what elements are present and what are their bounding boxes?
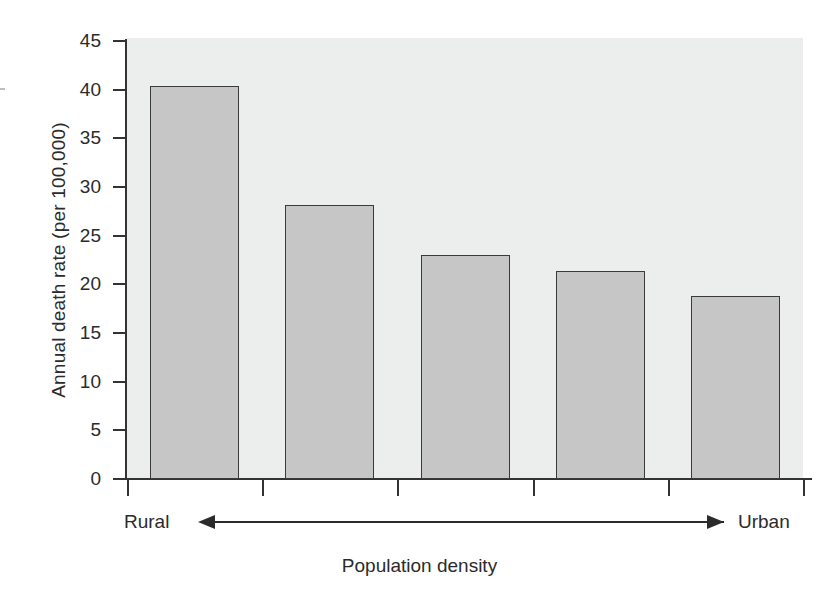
- y-axis-tick-label-text: 40: [57, 80, 101, 99]
- y-axis-tick-label-text: 25: [57, 226, 101, 245]
- bar: [556, 271, 645, 479]
- y-axis-tick-label-text: 0: [57, 469, 101, 488]
- y-axis-tick-label-text: 45: [57, 31, 101, 50]
- y-axis-tick-label-text: 20: [57, 274, 101, 293]
- density-direction-annotation: Rural Urban: [0, 508, 839, 536]
- bar: [150, 86, 239, 479]
- x-axis-tick: [127, 480, 129, 496]
- y-axis-tick-label: 40: [57, 80, 101, 99]
- rural-end-label: Rural: [124, 512, 169, 532]
- y-axis-tick: [113, 40, 127, 42]
- y-axis-tick: [113, 478, 127, 480]
- y-axis-line: [125, 39, 127, 480]
- y-axis-tick-label-text: 35: [57, 128, 101, 147]
- bar: [691, 296, 780, 479]
- x-axis-tick: [533, 480, 535, 496]
- y-axis-tick-label: 20: [57, 274, 101, 293]
- x-axis-tick: [397, 480, 399, 496]
- y-axis-tick-label: 5: [57, 420, 101, 439]
- x-axis-tick: [803, 480, 805, 496]
- y-axis-tick-label: 25: [57, 226, 101, 245]
- arrow-right-head-icon: [707, 515, 724, 529]
- y-axis-tick-label: 15: [57, 323, 101, 342]
- arrow-shaft: [212, 521, 724, 523]
- y-axis-tick: [113, 381, 127, 383]
- y-axis-tick: [113, 137, 127, 139]
- y-axis-tick-label-text: 30: [57, 177, 101, 196]
- y-axis-tick-label: 10: [57, 372, 101, 391]
- y-axis-tick-label: 0: [57, 469, 101, 488]
- y-axis-tick: [113, 235, 127, 237]
- page-edge-mark: [0, 88, 5, 90]
- y-axis-tick-label-text: 5: [57, 420, 101, 439]
- y-axis-tick-label: 30: [57, 177, 101, 196]
- y-axis-tick: [113, 332, 127, 334]
- x-axis-tick: [262, 480, 264, 496]
- x-axis-title: Population density: [0, 555, 839, 577]
- bar: [285, 205, 374, 479]
- bar: [421, 255, 510, 479]
- y-axis-tick-label-text: 10: [57, 372, 101, 391]
- y-axis-tick: [113, 429, 127, 431]
- y-axis-tick: [113, 89, 127, 91]
- y-axis-tick-label-text: 15: [57, 323, 101, 342]
- y-axis-tick: [113, 186, 127, 188]
- y-axis-tick-label: 45: [57, 31, 101, 50]
- y-axis-tick-label: 35: [57, 128, 101, 147]
- y-axis-tick: [113, 283, 127, 285]
- urban-end-label: Urban: [738, 512, 790, 532]
- bar-chart-figure: Annual death rate (per 100,000) 05101520…: [0, 0, 839, 606]
- x-axis-tick: [668, 480, 670, 496]
